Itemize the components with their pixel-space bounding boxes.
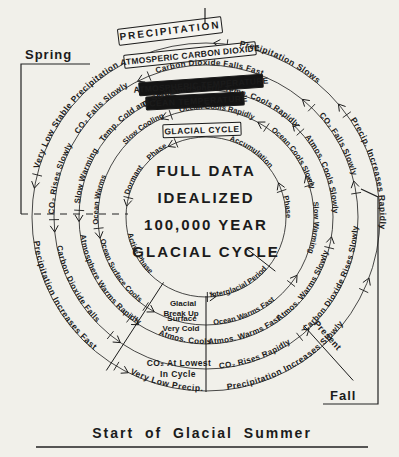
ring-label: Glacial [170,299,196,308]
ring-label: Slow Warming [306,201,321,255]
ring-label: Dormant [122,163,145,196]
ring-label: Phase [281,195,293,218]
ring-label: Ocean Warms [91,173,108,225]
glacial-cycle-page: GLACIAL CYCLEOCEAN TEMPERATUREATMOSPHERI… [0,0,399,457]
ring-label-text: Phase [145,141,168,162]
ring-label: Surface [167,314,197,323]
fall-label: Fall [330,388,356,403]
summer-label: Start of Glacial Summer [92,425,312,441]
glacial-cycle-figure: GLACIAL CYCLEOCEAN TEMPERATUREATMOSPHERI… [0,0,399,457]
tick-mark [107,331,113,339]
ring-label: CO₂ Rises Slowly [47,141,74,215]
ring-label-text: CO₂ Rises Slowly [47,141,74,215]
tick-mark [359,288,368,292]
center-title-line-1: FULL DATA [156,162,256,179]
ring-label-text: Slow Warming [306,201,321,255]
tick-mark [343,112,351,118]
ring-label: Interglacial Period [210,264,269,299]
tick-mark [264,123,270,131]
center-title-line-4: GLACIAL CYCLE [132,243,279,260]
ring-box-glacial-cycle: GLACIAL CYCLE [163,122,241,138]
ring-label: CO₂ At Lowest [147,358,211,368]
center-title-line-2: IDEALIZED [157,189,254,206]
ring-label-text: Phase [281,195,293,218]
spring-label: Spring [25,47,72,62]
ring-label-text: Ocean Cools Rapidly [178,102,256,122]
ring-label: In Cycle [160,369,196,379]
tick-mark [114,362,119,371]
tick-mark [94,228,104,229]
tick-mark [297,333,303,341]
ring-label-text: Dormant [122,163,145,196]
center-title-line-3: 100,000 YEAR [144,216,268,233]
tick-mark [147,71,151,80]
ring-label-text: Ocean Warms [91,173,108,225]
tick-mark [287,280,295,286]
ring-label: Phase [145,141,168,162]
tick-mark [74,210,84,211]
ring-box-precipitation: PRECIPITATION [117,17,222,46]
ring-label-text: Interglacial Period [210,264,269,299]
tick-mark [174,138,178,147]
ring-label: Ocean Cools Rapidly [178,102,256,122]
ring-label: Very Low Stable Precipitation [31,59,120,169]
ring-label-text: Very Low Stable Precipitation [31,59,120,169]
